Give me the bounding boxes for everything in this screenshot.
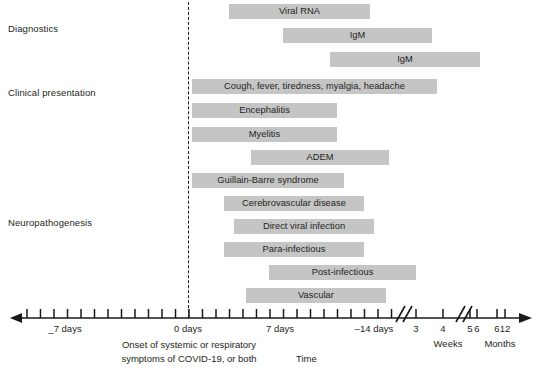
- bar-label-direct-viral-infection: Direct viral infection: [234, 219, 374, 234]
- bar-label-post-infectious: Post-infectious: [269, 265, 416, 280]
- bar-label-myelitis: Myelitis: [192, 127, 337, 142]
- time-axis: [0, 300, 537, 340]
- bar-label-para-infectious: Para-infectious: [224, 242, 364, 257]
- category-label-diagnostics: Diagnostics: [8, 23, 58, 34]
- bar-label-encephalitis: Encephalitis: [192, 103, 337, 118]
- axis-tick-label-7-days: 7 days: [244, 323, 316, 334]
- onset-marker-line: [188, 2, 189, 318]
- bar-label-igm-2: IgM: [330, 52, 480, 67]
- axis-title-time: Time: [296, 353, 317, 364]
- category-label-clinical-presentation: Clinical presentation: [8, 87, 96, 98]
- axis-tick-label-week-4: 4: [435, 323, 451, 334]
- axis-tick-label-minus-7-days: _7 days: [27, 323, 103, 334]
- bar-label-igm-1: IgM: [283, 28, 432, 43]
- onset-caption-line2: symptoms of COVID-19, or both: [84, 352, 294, 366]
- axis-tick-label-0-days: 0 days: [152, 323, 224, 334]
- axis-break-1: [396, 306, 412, 322]
- timeline-figure: Diagnostics Clinical presentation Neurop…: [0, 0, 537, 372]
- bar-label-cerebrovascular-disease: Cerebrovascular disease: [224, 196, 364, 211]
- axis-unit-label-months: Months: [474, 338, 526, 349]
- onset-caption-line1: Onset of systemic or respiratory: [84, 338, 294, 352]
- bar-label-guillain-barre: Guillain-Barre syndrome: [192, 173, 344, 188]
- bar-label-viral-rna: Viral RNA: [229, 4, 370, 19]
- axis-tick-label-14-days: –14 days: [334, 323, 414, 334]
- bar-label-adem: ADEM: [251, 150, 389, 165]
- bar-label-cough-fever: Cough, fever, tiredness, myalgia, headac…: [192, 79, 437, 94]
- axis-tick-label-week-3: 3: [408, 323, 424, 334]
- axis-unit-label-weeks: Weeks: [424, 338, 472, 349]
- category-label-neuropathogenesis: Neuropathogenesis: [8, 217, 92, 228]
- axis-tick-label-month-6: 6: [469, 323, 485, 334]
- axis-tick-label-month-12: 12: [495, 323, 515, 334]
